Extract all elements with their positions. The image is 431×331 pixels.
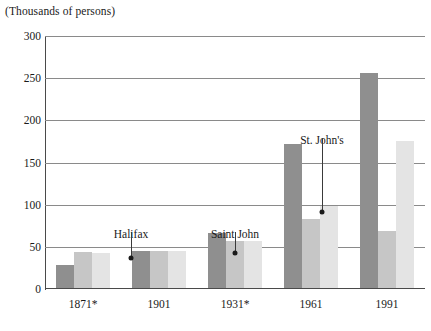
bar	[132, 251, 150, 289]
bar-group	[360, 36, 413, 289]
bar	[56, 265, 74, 289]
bar-group	[208, 36, 261, 289]
bar	[360, 73, 378, 289]
bar	[244, 241, 262, 289]
x-tick-label: 1991	[376, 298, 399, 310]
x-tick-label: 1871*	[69, 298, 98, 310]
plot-area	[45, 36, 425, 289]
bar	[168, 251, 186, 289]
y-tick-label: 150	[1, 157, 41, 169]
y-tick-label: 250	[1, 72, 41, 84]
bar	[320, 206, 338, 289]
x-tick-label: 1961	[300, 298, 323, 310]
bar	[150, 251, 168, 289]
y-tick-label: 200	[1, 114, 41, 126]
unit-caption: (Thousands of persons)	[5, 5, 115, 17]
x-axis-baseline	[45, 288, 425, 289]
bar-series-layer	[45, 36, 425, 289]
bar	[302, 219, 320, 289]
x-axis-tick-labels: 1871*19011931*19611991	[45, 298, 425, 318]
x-tick-label: 1901	[148, 298, 171, 310]
bar	[378, 231, 396, 289]
bar	[208, 233, 226, 289]
bar-group	[284, 36, 337, 289]
bar	[284, 144, 302, 289]
y-tick-label: 100	[1, 199, 41, 211]
bar-chart: (Thousands of persons) 05010015020025030…	[0, 0, 431, 331]
bar	[92, 253, 110, 289]
bar-group	[132, 36, 185, 289]
bar	[226, 241, 244, 289]
x-tick-label: 1931*	[221, 298, 250, 310]
y-axis-tick-labels: 050100150200250300	[0, 36, 41, 289]
y-tick-label: 0	[1, 283, 41, 295]
bar	[396, 141, 414, 289]
y-tick-label: 300	[1, 30, 41, 42]
bar-group	[56, 36, 109, 289]
y-tick-label: 50	[1, 241, 41, 253]
bar	[74, 252, 92, 289]
